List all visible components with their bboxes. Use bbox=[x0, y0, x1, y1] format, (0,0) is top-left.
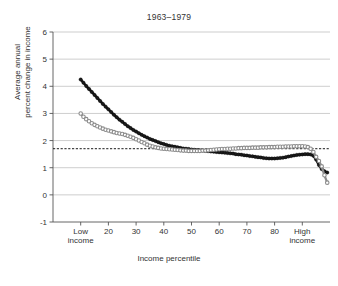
x-tick-label: Highincome bbox=[289, 227, 315, 245]
y-tick-label: 0 bbox=[43, 191, 48, 200]
y-tick-label: 4 bbox=[43, 82, 48, 91]
data-point bbox=[101, 102, 105, 106]
y-tick-label: 6 bbox=[43, 28, 48, 37]
data-point bbox=[314, 155, 318, 159]
series-black-filled-series bbox=[79, 78, 329, 175]
x-tick-label: 60 bbox=[215, 227, 224, 236]
x-tick-label: 80 bbox=[270, 227, 279, 236]
data-point bbox=[96, 96, 100, 100]
series-gray-open-circle-series bbox=[79, 112, 329, 185]
data-point bbox=[82, 81, 86, 85]
data-point bbox=[115, 115, 119, 119]
data-point bbox=[312, 150, 316, 154]
data-point bbox=[104, 105, 108, 109]
data-point bbox=[87, 87, 91, 91]
chart-figure: 1963–1979 Average annual percent change … bbox=[0, 0, 338, 286]
gridlines bbox=[53, 32, 330, 195]
data-point bbox=[90, 90, 94, 94]
data-point bbox=[109, 110, 113, 114]
x-tick-label: Lowincome bbox=[68, 227, 94, 245]
data-point bbox=[79, 78, 83, 82]
data-point bbox=[323, 174, 327, 178]
y-tick-label: 5 bbox=[43, 55, 48, 64]
x-tick-label: 20 bbox=[104, 227, 113, 236]
y-tick-label: 3 bbox=[43, 109, 48, 118]
data-series-layer bbox=[79, 78, 329, 185]
data-point bbox=[93, 93, 97, 97]
x-tick-label: 50 bbox=[187, 227, 196, 236]
y-tick-label: 2 bbox=[43, 137, 48, 146]
data-point bbox=[98, 99, 102, 103]
data-point bbox=[84, 84, 88, 88]
plot-area: -10123456 Lowincome20304050607080Highinc… bbox=[0, 0, 338, 286]
data-point bbox=[325, 181, 329, 185]
x-axis-tick-labels: Lowincome20304050607080Highincome bbox=[68, 227, 316, 245]
data-point bbox=[317, 159, 321, 163]
x-tick-label: 30 bbox=[132, 227, 141, 236]
data-point bbox=[79, 112, 83, 116]
data-point bbox=[320, 165, 324, 169]
y-axis-tick-labels: -10123456 bbox=[40, 28, 48, 227]
x-axis-tick-marks bbox=[81, 222, 303, 226]
y-axis-tick-marks bbox=[50, 32, 54, 222]
data-point bbox=[107, 108, 111, 112]
x-tick-label: 70 bbox=[242, 227, 251, 236]
data-point bbox=[309, 147, 313, 151]
y-tick-label: 1 bbox=[43, 164, 48, 173]
series-line bbox=[81, 80, 328, 173]
x-tick-label: 40 bbox=[159, 227, 168, 236]
data-point bbox=[112, 113, 116, 117]
y-tick-label: -1 bbox=[40, 218, 48, 227]
